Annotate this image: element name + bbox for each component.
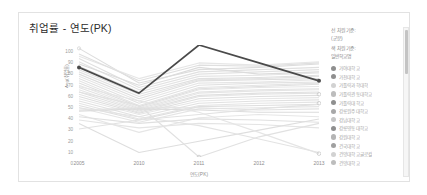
legend-item-label: 강릉원주대학교 (339, 108, 368, 114)
x-axis-tick: 2013 (313, 160, 324, 166)
legend-scrollbar[interactable] (403, 27, 409, 177)
legend-scrollbar-thumb[interactable] (405, 30, 408, 74)
plot-area: Avg(취업률) 1009080706050403020100 20052010… (27, 39, 327, 179)
highlighted-series-marker[interactable] (317, 79, 321, 83)
legend-color-swatch (331, 74, 336, 79)
legend-item-label: 가천대학교 (339, 74, 360, 80)
background-series-group (79, 48, 319, 157)
legend-header-line4: 일반학교명 (331, 53, 401, 61)
legend-item-label: 가톨릭대학교 (339, 100, 364, 106)
legend-items-list: 가야대학교가천대학교가톨릭과학대학가톨릭관동대학교가톨릭대학교강릉원주대학교강남… (331, 64, 401, 167)
legend-color-swatch (331, 134, 336, 139)
y-axis-tick: 70 (68, 82, 73, 87)
legend-item-label: 가톨릭관동대학교 (339, 91, 372, 97)
legend-item-label: 가야대학교 (339, 65, 360, 71)
legend-color-swatch (331, 117, 336, 122)
legend-item[interactable]: 가천대학교 (331, 73, 401, 82)
y-axis-tick: 40 (68, 116, 73, 121)
legend-color-swatch (331, 152, 336, 157)
y-axis-tick: 90 (68, 60, 73, 65)
x-axis-title: 연도(PK) (77, 170, 321, 177)
y-axis-tick: 30 (68, 127, 73, 132)
legend-item[interactable]: 강릉영동대학교 (331, 124, 401, 133)
y-axis-tick: 60 (68, 93, 73, 98)
legend-item-label: 가톨릭과학대학 (339, 82, 368, 88)
legend-item[interactable]: 강남대학교 (331, 116, 401, 125)
page-title: 취업률 - 연도(PK) (29, 20, 112, 35)
y-axis-tick: 10 (68, 149, 73, 154)
legend-item[interactable]: 강릉원주대학교 (331, 107, 401, 116)
x-axis-tick: 2011 (194, 160, 205, 166)
y-axis-tick: 20 (68, 138, 73, 143)
legend-color-swatch (331, 143, 336, 148)
legend-item[interactable]: 가톨릭과학대학 (331, 81, 401, 90)
x-axis-tick: 2005 (73, 160, 84, 166)
legend-item-label: 건국대학교 (339, 143, 360, 149)
viz-card: 취업률 - 연도(PK) Avg(취업률) 100908070605040302… (18, 12, 410, 182)
y-axis-tick: 50 (68, 105, 73, 110)
highlighted-series-marker[interactable] (77, 65, 81, 69)
chart-panel[interactable] (77, 45, 321, 157)
legend-color-swatch (331, 83, 336, 88)
legend-color-swatch (331, 100, 336, 105)
legend-item[interactable]: 강원대학교 (331, 133, 401, 142)
x-axis-tick: 2012 (253, 160, 264, 166)
legend-color-swatch (331, 126, 336, 131)
legend-item-label: 건양대학교글로컬 (339, 151, 372, 157)
legend-header-line1: 선 차원 기준: (331, 27, 401, 35)
x-axis-ticks: 20052010201120122013 (77, 160, 321, 170)
y-axis-ticks: 1009080706050403020100 (49, 45, 75, 157)
legend-color-swatch (331, 109, 336, 114)
legend-item-label: 강남대학교 (339, 117, 360, 123)
legend-header-line2: (군분) (331, 35, 401, 43)
y-axis-tick: 80 (68, 71, 73, 76)
legend-color-swatch (331, 91, 336, 96)
legend-color-swatch (331, 160, 336, 165)
line-chart-svg (77, 45, 321, 157)
y-axis-tick: 100 (65, 49, 73, 54)
legend-item[interactable]: 건양대학교글로컬 (331, 150, 401, 159)
legend-item-label: 강원대학교 (339, 134, 360, 140)
legend-color-swatch (331, 66, 336, 71)
legend-item-label: 강릉영동대학교 (339, 125, 368, 131)
legend-item[interactable]: 가야대학교 (331, 64, 401, 73)
legend-header-line3: 색 차원 기준: (331, 45, 401, 53)
legend-item[interactable]: 건국대학교 (331, 141, 401, 150)
legend-item-label: 건양대학교 (339, 160, 360, 166)
legend-item[interactable]: 가톨릭관동대학교 (331, 90, 401, 99)
legend-item[interactable]: 가톨릭대학교 (331, 98, 401, 107)
legend-panel[interactable]: 선 차원 기준: (군분) 색 차원 기준: 일반학교명 가야대학교가천대학교가… (331, 27, 401, 177)
legend-item[interactable]: 건양대학교 (331, 159, 401, 168)
x-axis-tick: 2010 (133, 160, 144, 166)
